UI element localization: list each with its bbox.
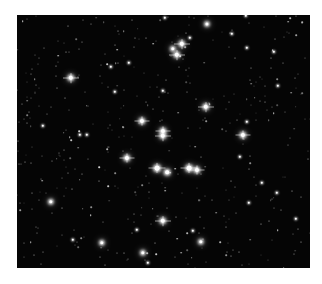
faint-star — [108, 146, 109, 147]
faint-star — [155, 253, 157, 255]
faint-star — [138, 122, 139, 123]
faint-star — [98, 167, 100, 169]
faint-star — [117, 62, 118, 63]
faint-star — [178, 174, 179, 175]
faint-star — [165, 190, 167, 192]
faint-star — [185, 47, 187, 49]
faint-star — [271, 199, 272, 200]
faint-star — [255, 184, 256, 185]
faint-star — [163, 110, 164, 111]
faint-star — [195, 146, 197, 148]
faint-star — [150, 87, 151, 88]
faint-star — [204, 166, 206, 168]
faint-star — [271, 240, 272, 241]
faint-star — [34, 55, 35, 56]
faint-star — [61, 235, 62, 236]
faint-star — [287, 21, 289, 23]
faint-star — [295, 77, 296, 78]
faint-star — [199, 199, 201, 201]
faint-star — [185, 81, 187, 83]
faint-star — [287, 144, 288, 145]
faint-star — [271, 58, 272, 59]
faint-star — [143, 72, 144, 73]
faint-star — [296, 15, 297, 16]
faint-star — [101, 82, 102, 83]
star — [295, 218, 297, 220]
faint-star — [164, 187, 166, 189]
faint-star — [149, 183, 150, 184]
faint-star — [77, 147, 79, 149]
faint-star — [101, 65, 102, 66]
faint-star — [141, 215, 142, 216]
faint-star — [285, 111, 286, 112]
faint-star — [98, 180, 99, 181]
faint-star — [228, 101, 229, 102]
faint-star — [254, 97, 256, 99]
faint-star — [40, 191, 41, 192]
faint-star — [57, 61, 58, 62]
faint-star — [21, 104, 22, 105]
faint-star — [180, 252, 182, 254]
faint-star — [86, 105, 88, 107]
faint-star — [88, 105, 89, 106]
faint-star — [121, 107, 122, 108]
star — [273, 51, 275, 53]
faint-star — [66, 129, 67, 130]
faint-star — [66, 52, 67, 53]
faint-star — [158, 96, 159, 97]
faint-star — [276, 104, 278, 106]
faint-star — [226, 108, 227, 109]
faint-star — [174, 257, 175, 258]
faint-star — [116, 85, 118, 87]
faint-star — [300, 94, 301, 95]
faint-star — [84, 237, 85, 238]
faint-star — [107, 250, 108, 251]
faint-star — [122, 126, 124, 128]
faint-star — [270, 68, 271, 69]
faint-star — [273, 197, 275, 199]
faint-star — [71, 189, 72, 190]
faint-star — [27, 19, 28, 20]
faint-star — [157, 216, 158, 217]
faint-star — [186, 250, 188, 252]
diffraction-spike — [71, 73, 72, 83]
faint-star — [250, 80, 251, 81]
faint-star — [268, 120, 270, 122]
faint-star — [289, 138, 290, 139]
faint-star — [202, 247, 203, 248]
diffraction-spike — [177, 50, 178, 60]
faint-star — [69, 136, 71, 138]
star — [114, 91, 116, 93]
faint-star — [234, 93, 235, 94]
star — [248, 202, 250, 204]
faint-star — [153, 109, 154, 110]
faint-star — [66, 166, 67, 167]
faint-star — [100, 76, 101, 77]
diffraction-spike — [127, 154, 128, 163]
faint-star — [260, 77, 261, 78]
faint-star — [69, 110, 70, 111]
faint-star — [223, 168, 224, 169]
faint-star — [52, 212, 53, 213]
faint-star — [276, 79, 278, 81]
faint-star — [301, 92, 303, 94]
faint-star — [199, 233, 200, 234]
faint-star — [249, 162, 251, 164]
faint-star — [74, 245, 75, 246]
faint-star — [235, 58, 236, 59]
star — [136, 229, 138, 231]
faint-star — [79, 179, 81, 181]
faint-star — [145, 102, 146, 103]
diffraction-spike — [189, 163, 190, 173]
faint-star — [148, 197, 149, 198]
faint-star — [221, 31, 222, 32]
faint-star — [27, 114, 29, 116]
faint-star — [39, 200, 40, 201]
faint-star — [232, 249, 233, 250]
faint-star — [297, 229, 298, 230]
bright-star — [100, 241, 103, 244]
faint-star — [108, 200, 110, 202]
faint-star — [175, 168, 177, 170]
faint-star — [17, 49, 19, 51]
faint-star — [249, 263, 250, 264]
